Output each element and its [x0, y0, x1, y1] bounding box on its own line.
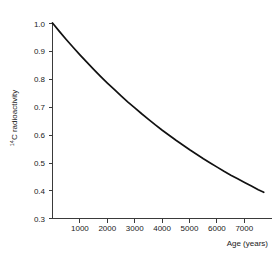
y-tick-label-0.7: 0.7 [34, 103, 46, 112]
y-axis-title-main: C radioactivity [10, 90, 19, 140]
x-tick-label-1000: 1000 [71, 224, 89, 233]
x-axis-title: Age (years) [227, 239, 269, 248]
y-tick-label-0.9: 0.9 [34, 47, 46, 56]
y-tick-label-1.0: 1.0 [34, 20, 46, 29]
x-tick-marks [80, 219, 244, 223]
x-tick-label-6000: 6000 [208, 224, 226, 233]
x-tick-label-3000: 3000 [126, 224, 144, 233]
decay-curve [53, 23, 264, 192]
y-axis-title: 14C radioactivity [9, 90, 19, 146]
x-tick-label-5000: 5000 [181, 224, 199, 233]
y-tick-label-0.6: 0.6 [34, 131, 46, 140]
y-tick-label-0.5: 0.5 [34, 159, 46, 168]
x-tick-label-4000: 4000 [153, 224, 171, 233]
y-tick-marks [49, 24, 53, 219]
svg-text:14C radioactivity: 14C radioactivity [9, 90, 19, 146]
radiocarbon-decay-chart: 1.0 0.9 0.8 0.7 0.6 0.5 0.4 0.3 1000 200… [0, 0, 279, 254]
y-tick-label-0.4: 0.4 [34, 187, 46, 196]
figure-container: 1.0 0.9 0.8 0.7 0.6 0.5 0.4 0.3 1000 200… [0, 0, 279, 254]
y-tick-label-0.8: 0.8 [34, 75, 46, 84]
x-tick-label-7000: 7000 [235, 224, 253, 233]
y-tick-label-0.3: 0.3 [34, 215, 46, 224]
x-tick-label-2000: 2000 [98, 224, 116, 233]
